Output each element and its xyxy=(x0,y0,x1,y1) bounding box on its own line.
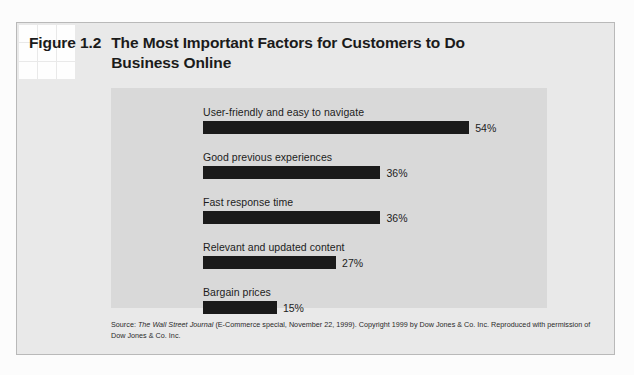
bar-fill xyxy=(203,211,380,224)
figure-title: The Most Important Factors for Customers… xyxy=(111,33,511,73)
bar-category-label: Good previous experiences xyxy=(203,151,332,163)
figure-box: Figure 1.2 The Most Important Factors fo… xyxy=(16,22,615,355)
bar-fill xyxy=(203,256,336,269)
source-label: Source: xyxy=(111,320,138,329)
bar-row: 36% xyxy=(203,211,407,224)
bar-value-label: 36% xyxy=(386,212,407,224)
bar-row: 54% xyxy=(203,121,496,134)
page-root: Figure 1.2 The Most Important Factors fo… xyxy=(0,0,634,375)
bar-category-label: User-friendly and easy to navigate xyxy=(203,106,364,118)
bar-row: 27% xyxy=(203,256,363,269)
bar-value-label: 36% xyxy=(386,167,407,179)
figure-number: Figure 1.2 xyxy=(29,33,101,53)
chart-panel: User-friendly and easy to navigate54%Goo… xyxy=(111,88,547,308)
bar-fill xyxy=(203,166,380,179)
bar-fill xyxy=(203,301,277,314)
bar-value-label: 27% xyxy=(342,257,363,269)
bar-value-label: 15% xyxy=(283,302,304,314)
bar-chart: User-friendly and easy to navigate54%Goo… xyxy=(111,88,547,308)
bar-row: 15% xyxy=(203,301,304,314)
bar-category-label: Bargain prices xyxy=(203,286,271,298)
bar-value-label: 54% xyxy=(475,122,496,134)
bar-row: 36% xyxy=(203,166,407,179)
figure-heading: Figure 1.2 The Most Important Factors fo… xyxy=(29,33,596,73)
bar-fill xyxy=(203,121,469,134)
source-publication: The Wall Street Journal xyxy=(138,320,213,329)
source-note: Source: The Wall Street Journal (E-Comme… xyxy=(111,319,601,341)
bar-category-label: Relevant and updated content xyxy=(203,241,345,253)
bar-category-label: Fast response time xyxy=(203,196,293,208)
